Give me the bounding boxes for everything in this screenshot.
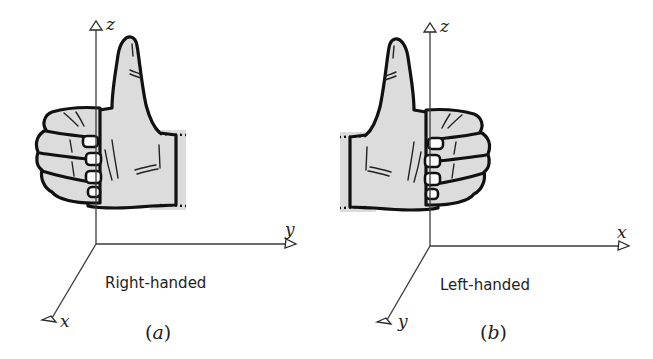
panel-b-y-axis bbox=[387, 246, 430, 320]
panel-b-subcaption: (b) bbox=[480, 323, 507, 342]
panel-a-x-axis bbox=[52, 244, 96, 318]
panel-b-z-arrowhead bbox=[424, 23, 436, 32]
panel-a-caption: Right-handed bbox=[105, 276, 206, 291]
panel-a-x-label: x bbox=[60, 313, 70, 330]
panel-b-y-label: y bbox=[398, 313, 408, 330]
panel-b-caption: Left-handed bbox=[440, 278, 530, 293]
panel-a-right-hand-illustration bbox=[36, 37, 186, 210]
panel-b-x-arrowhead bbox=[618, 241, 629, 250]
panel-b-y-arrowhead bbox=[377, 318, 391, 324]
panel-a-subcaption: (a) bbox=[145, 323, 171, 342]
coordinate-systems-figure bbox=[0, 0, 653, 359]
panel-a-x-arrowhead bbox=[42, 316, 56, 322]
panel-b-left-hand-illustration bbox=[340, 39, 490, 212]
panel-a-z-arrowhead bbox=[90, 21, 102, 30]
panel-b-z-label: z bbox=[440, 18, 449, 35]
panel-a-z-label: z bbox=[106, 16, 115, 33]
panel-a-y-arrowhead bbox=[285, 239, 296, 248]
panel-b-x-label: x bbox=[617, 224, 627, 241]
panel-a-y-label: y bbox=[285, 221, 295, 238]
